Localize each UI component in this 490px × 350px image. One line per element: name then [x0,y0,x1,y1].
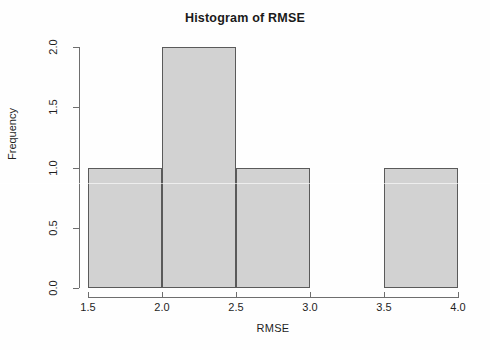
y-tick-label: 2.0 [46,32,60,62]
x-tick-mark [458,292,459,298]
x-tick-label: 1.5 [68,301,108,313]
y-tick-mark [73,228,79,229]
y-axis-label: Frequency [5,94,19,174]
histogram-bar [88,168,162,289]
x-tick-label: 3.0 [290,301,330,313]
y-tick-label: 0.0 [46,273,60,303]
y-tick-label: 1.0 [46,153,60,183]
x-axis-label: RMSE [88,322,458,334]
x-tick-label: 2.5 [216,301,256,313]
x-axis-line [88,297,458,298]
y-tick-label: 1.5 [46,92,60,122]
y-tick-mark [73,47,79,48]
histogram-plot: Histogram of RMSE 1.52.02.53.03.54.0 0.0… [0,0,490,350]
y-tick-mark [73,168,79,169]
histogram-bar [162,47,236,288]
y-axis-line [79,47,80,288]
x-tick-mark [236,292,237,298]
y-tick-label: 0.5 [46,213,60,243]
x-tick-label: 4.0 [438,301,478,313]
y-tick-mark [73,107,79,108]
x-tick-mark [384,292,385,298]
histogram-bar [236,168,310,289]
x-tick-mark [162,292,163,298]
x-tick-label: 3.5 [364,301,404,313]
y-tick-mark [73,288,79,289]
histogram-bar [384,168,458,289]
x-tick-mark [310,292,311,298]
page-title: Histogram of RMSE [0,11,490,25]
plot-panel [88,47,458,288]
x-tick-label: 2.0 [142,301,182,313]
x-tick-mark [88,292,89,298]
